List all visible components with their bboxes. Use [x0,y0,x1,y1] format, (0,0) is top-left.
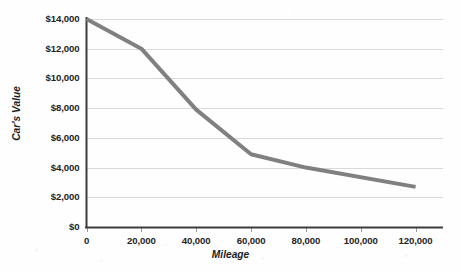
x-axis-ticks [88,228,417,232]
x-axis-tick-label: 120,000 [376,235,456,246]
y-axis-tick-label: $12,000 [2,43,80,54]
x-axis-title: Mileage [0,249,461,260]
y-axis-tick-label: $14,000 [2,13,80,24]
y-axis-tick-label: $0 [2,221,80,232]
y-axis-tick-label: $2,000 [2,191,80,202]
y-axis-tick-label: $4,000 [2,162,80,173]
line-chart: $0$2,000$4,000$6,000$8,000$10,000$12,000… [0,0,461,272]
data-series-line [87,19,416,187]
y-axis-title: Car's Value [11,74,22,154]
